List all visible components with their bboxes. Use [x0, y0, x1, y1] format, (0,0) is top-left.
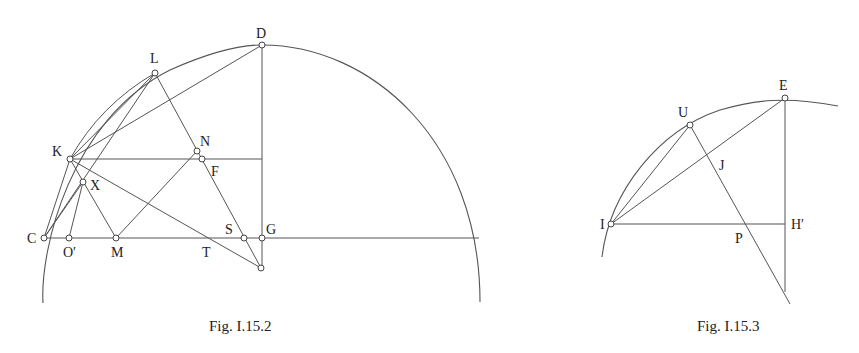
- line-i-u: [611, 125, 690, 224]
- point-s: [241, 235, 247, 241]
- line-i-e: [611, 98, 785, 224]
- line-k-bottom: [70, 159, 261, 268]
- point-x: [80, 179, 86, 185]
- line-c-x: [44, 182, 83, 238]
- point-d: [259, 42, 265, 48]
- point-g: [259, 235, 265, 241]
- point-bottom: [258, 265, 264, 271]
- line-u-p: [690, 125, 790, 304]
- label-m: M: [111, 245, 124, 260]
- label-u: U: [678, 105, 688, 120]
- point-k: [67, 156, 73, 162]
- label-t: T: [202, 245, 211, 260]
- line-k-m: [70, 159, 116, 238]
- caption-fig-i-15-3: Fig. I.15.3: [697, 318, 760, 335]
- point-f: [199, 156, 205, 162]
- label-d: D: [256, 26, 266, 41]
- figure-i-15-3: E U J I P H′: [600, 78, 838, 304]
- point-i: [608, 221, 614, 227]
- label-s: S: [225, 222, 233, 237]
- label-e: E: [779, 78, 788, 93]
- point-o: [66, 235, 72, 241]
- label-o-prime: O′: [63, 245, 76, 260]
- label-j: J: [719, 158, 725, 173]
- label-h-prime: H′: [791, 217, 804, 232]
- arc-circle: [43, 45, 480, 303]
- label-k: K: [52, 144, 62, 159]
- point-c: [41, 235, 47, 241]
- label-c: C: [27, 231, 36, 246]
- point-m: [113, 235, 119, 241]
- label-n: N: [200, 134, 210, 149]
- label-g: G: [266, 222, 276, 237]
- geometry-figures: D L K N F X C O′ M T S G E U J I P H′: [0, 0, 859, 353]
- point-l: [152, 70, 158, 76]
- line-k-d: [70, 45, 262, 159]
- label-p: P: [735, 231, 743, 246]
- label-x: X: [90, 178, 100, 193]
- label-l: L: [150, 51, 159, 66]
- point-u: [687, 122, 693, 128]
- figure-i-15-2: D L K N F X C O′ M T S G: [27, 26, 480, 303]
- point-e: [782, 95, 788, 101]
- line-c-k: [44, 159, 70, 238]
- caption-fig-i-15-2: Fig. I.15.2: [209, 318, 272, 335]
- label-f: F: [211, 164, 219, 179]
- label-i: I: [600, 217, 605, 232]
